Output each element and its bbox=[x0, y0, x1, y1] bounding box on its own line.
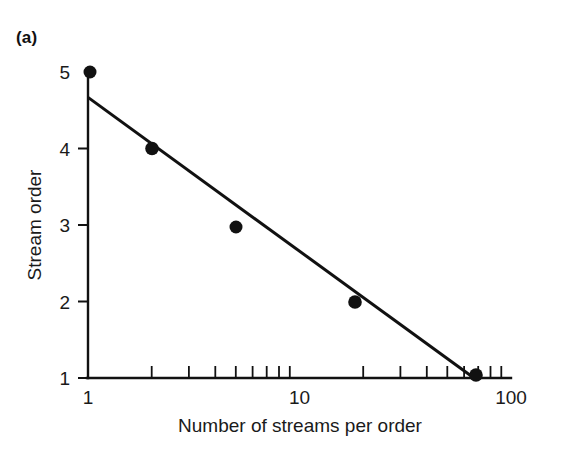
y-tick-label-4: 4 bbox=[59, 139, 70, 160]
y-tick-label-1: 1 bbox=[59, 368, 70, 389]
x-tick-label-1: 1 bbox=[83, 387, 94, 408]
data-point-order-1 bbox=[469, 368, 483, 382]
data-points bbox=[84, 66, 483, 382]
data-point-order-4 bbox=[145, 142, 159, 156]
y-axis-ticks bbox=[78, 149, 88, 379]
y-axis-title: Stream order bbox=[24, 169, 45, 281]
figure-panel: (a) Stream order Number of streams per o… bbox=[0, 0, 575, 450]
y-axis-tick-labels: 1 2 3 4 5 bbox=[59, 62, 70, 389]
y-tick-label-2: 2 bbox=[59, 292, 70, 313]
x-axis-title: Number of streams per order bbox=[178, 415, 423, 436]
fitted-regression-line bbox=[88, 97, 474, 378]
data-point-order-3 bbox=[230, 221, 243, 234]
x-axis-tick-labels: 1 10 100 bbox=[83, 387, 527, 408]
stream-order-scatter-chart: Stream order Number of streams per order… bbox=[0, 0, 575, 450]
data-point-order-2 bbox=[348, 295, 362, 309]
axes bbox=[87, 72, 511, 378]
x-axis-minor-ticks bbox=[152, 366, 502, 378]
y-tick-label-3: 3 bbox=[59, 215, 70, 236]
x-tick-label-10: 10 bbox=[289, 387, 310, 408]
y-tick-label-5: 5 bbox=[59, 62, 70, 83]
data-point-order-5 bbox=[84, 66, 97, 79]
x-tick-label-100: 100 bbox=[495, 387, 527, 408]
